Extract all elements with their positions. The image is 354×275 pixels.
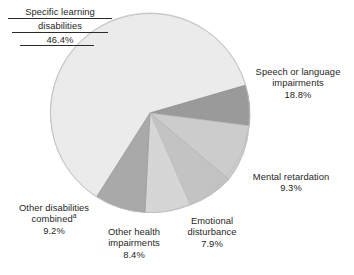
slice-label-line1: Other disabilities (6, 202, 102, 213)
footnote-marker: a (73, 212, 77, 219)
slice-label-line2: impairments (244, 77, 352, 88)
slice-label-line1: Specific learning (6, 6, 114, 17)
pie-chart-figure: Specific learning disabilities 46.4% Spe… (0, 0, 354, 275)
slice-label-other-health-impairments: Other health impairments 8.4% (93, 226, 175, 260)
slice-label-line1: Speech or language (244, 66, 352, 77)
slice-label-value: 9.3% (231, 182, 351, 193)
slice-label-emotional-disturbance: Emotional disturbance 7.9% (171, 215, 253, 249)
slice-label-line2: combined (32, 213, 73, 224)
slice-label-line2: impairments (93, 237, 175, 248)
callout-rule-2 (12, 32, 108, 33)
slice-label-value: 9.2% (6, 225, 102, 236)
slice-label-value: 8.4% (93, 249, 175, 260)
slice-label-value: 18.8% (244, 89, 352, 100)
slice-label-line1: Other health (93, 226, 175, 237)
callout-rule-3 (20, 45, 94, 46)
slice-label-value: 46.4% (6, 34, 114, 45)
slice-label-specific-learning-disabilities: Specific learning disabilities 46.4% (6, 6, 114, 47)
slice-label-speech-or-language-impairments: Speech or language impairments 18.8% (244, 66, 352, 100)
callout-rule-1 (8, 18, 112, 19)
slice-label-line2-wrap: combineda (6, 213, 102, 224)
slice-label-mental-retardation: Mental retardation 9.3% (231, 171, 351, 194)
slice-label-line1: Emotional (171, 215, 253, 226)
slice-label-line1: Mental retardation (231, 171, 351, 182)
slice-label-value: 7.9% (171, 238, 253, 249)
slice-label-other-disabilities-combined: Other disabilities combineda 9.2% (6, 202, 102, 236)
slice-label-line2: disabilities (6, 20, 114, 31)
slice-label-line2: disturbance (171, 226, 253, 237)
